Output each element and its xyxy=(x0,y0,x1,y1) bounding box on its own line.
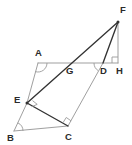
vertex-label-h: H xyxy=(116,65,123,76)
geometry-canvas: FAGDHEBC xyxy=(0,0,132,145)
vertex-label-c: C xyxy=(65,131,72,142)
vertex-dot-e xyxy=(26,102,29,105)
segments-layer xyxy=(14,22,118,131)
vertex-label-f: F xyxy=(120,4,126,15)
vertex-label-e: E xyxy=(14,94,20,105)
vertex-label-g: G xyxy=(66,65,73,76)
vertex-label-d: D xyxy=(100,65,107,76)
vertex-label-a: A xyxy=(35,47,42,58)
segment-ef xyxy=(27,22,118,103)
vertex-dot-f xyxy=(117,21,120,24)
arc-at-D xyxy=(94,63,98,71)
vertex-labels-layer: FAGDHEBC xyxy=(7,4,126,143)
segment-eb xyxy=(14,103,27,131)
right-angle-at-H xyxy=(112,57,118,63)
vertex-label-b: B xyxy=(7,132,14,143)
segment-ae xyxy=(27,63,38,103)
geometry-figure: FAGDHEBC xyxy=(0,0,132,145)
